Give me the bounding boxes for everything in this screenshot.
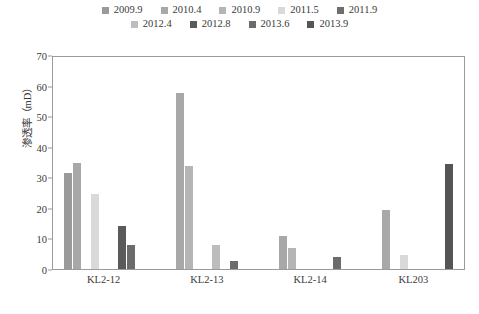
- bar-group-KL2-13: [155, 56, 258, 269]
- legend-label: 2013.6: [261, 18, 290, 30]
- bar-slot: [184, 56, 193, 269]
- bar-slot: [297, 56, 306, 269]
- legend-swatch-icon: [307, 21, 314, 28]
- bar-slot: [324, 56, 333, 269]
- bar-slot: [90, 56, 99, 269]
- legend-swatch-icon: [161, 7, 168, 14]
- bar-2012.8-KL2-12[interactable]: [118, 226, 126, 269]
- bar-slot: [342, 56, 351, 269]
- y-tick-label: 60: [37, 81, 48, 92]
- legend-label: 2013.9: [319, 18, 348, 30]
- bar-slot: [108, 56, 117, 269]
- legend-row-1: 2009.92010.42010.92011.52011.9: [93, 4, 387, 16]
- bar-slot: [175, 56, 184, 269]
- bar-slot: [445, 56, 454, 269]
- legend-swatch-icon: [102, 7, 109, 14]
- bar-2013.9-KL203[interactable]: [445, 164, 453, 269]
- y-tick-label: 40: [37, 142, 48, 153]
- bar-slot: [99, 56, 108, 269]
- legend-swatch-icon: [278, 7, 285, 14]
- bar-slot: [288, 56, 297, 269]
- bar-slot: [81, 56, 90, 269]
- legend-item-2012.4[interactable]: 2012.4: [131, 18, 172, 30]
- legend-item-2011.5[interactable]: 2011.5: [278, 4, 319, 16]
- bar-slot: [72, 56, 81, 269]
- bar-groups: [52, 56, 465, 269]
- legend-label: 2010.4: [173, 4, 202, 16]
- permeability-bar-chart: 2009.92010.42010.92011.52011.9 2012.4201…: [0, 0, 479, 314]
- bar-slot: [117, 56, 126, 269]
- bar-slot: [193, 56, 202, 269]
- bar-2012.4-KL2-13[interactable]: [212, 245, 220, 269]
- bar-slot: [409, 56, 418, 269]
- bar-slot: [427, 56, 436, 269]
- legend-swatch-icon: [190, 21, 197, 28]
- legend-item-2013.9[interactable]: 2013.9: [307, 18, 348, 30]
- bar-2011.5-KL2-12[interactable]: [91, 194, 99, 269]
- bar-slot: [382, 56, 391, 269]
- y-axis-title: 渗透率（mD）: [19, 56, 34, 176]
- y-tick-label: 70: [37, 51, 48, 62]
- legend-label: 2009.9: [114, 4, 143, 16]
- bar-group-KL2-14: [259, 56, 362, 269]
- bar-slot: [333, 56, 342, 269]
- bar-slot: [220, 56, 229, 269]
- legend-item-2010.9[interactable]: 2010.9: [219, 4, 260, 16]
- legend-swatch-icon: [337, 7, 344, 14]
- bar-slot: [315, 56, 324, 269]
- bar-slot: [135, 56, 144, 269]
- x-tick-label-KL2-12: KL2-12: [52, 274, 155, 285]
- bar-slot: [63, 56, 72, 269]
- legend-label: 2011.5: [290, 4, 319, 16]
- bar-slot: [400, 56, 409, 269]
- legend-swatch-icon: [219, 7, 226, 14]
- bar-slot: [373, 56, 382, 269]
- bar-slot: [238, 56, 247, 269]
- y-tick-label: 0: [42, 265, 47, 276]
- bar-2010.4-KL2-12[interactable]: [73, 163, 81, 270]
- y-tick-label: 50: [37, 112, 48, 123]
- bar-2010.9-KL2-13[interactable]: [185, 166, 193, 269]
- bar-2010.4-KL2-14[interactable]: [279, 236, 287, 269]
- x-tick-label-KL2-13: KL2-13: [155, 274, 258, 285]
- x-tick-label-KL2-14: KL2-14: [259, 274, 362, 285]
- bar-slot: [229, 56, 238, 269]
- bar-2009.9-KL2-12[interactable]: [64, 173, 72, 269]
- legend-label: 2011.9: [349, 4, 378, 16]
- bar-slot: [391, 56, 400, 269]
- bar-2010.4-KL203[interactable]: [382, 210, 390, 269]
- bar-slot: [306, 56, 315, 269]
- bar-2010.4-KL2-13[interactable]: [176, 93, 184, 269]
- x-axis-labels: KL2-12KL2-13KL2-14KL203: [52, 274, 465, 285]
- bar-2011.5-KL203[interactable]: [400, 255, 408, 269]
- bar-slot: [279, 56, 288, 269]
- legend-item-2011.9[interactable]: 2011.9: [337, 4, 378, 16]
- legend-item-2010.4[interactable]: 2010.4: [161, 4, 202, 16]
- bar-slot: [166, 56, 175, 269]
- bar-slot: [418, 56, 427, 269]
- y-tick-label: 10: [37, 234, 48, 245]
- bar-slot: [126, 56, 135, 269]
- legend-label: 2012.4: [143, 18, 172, 30]
- bar-group-KL2-12: [52, 56, 155, 269]
- legend-swatch-icon: [249, 21, 256, 28]
- bar-slot: [211, 56, 220, 269]
- bar-slot: [270, 56, 279, 269]
- y-tick-label: 20: [37, 203, 48, 214]
- bar-2013.6-KL2-14[interactable]: [333, 257, 341, 269]
- legend-label: 2012.8: [202, 18, 231, 30]
- bar-2010.9-KL2-14[interactable]: [288, 248, 296, 269]
- chart-legend: 2009.92010.42010.92011.52011.9 2012.4201…: [0, 4, 479, 30]
- bar-slot: [202, 56, 211, 269]
- bar-2013.6-KL2-12[interactable]: [127, 245, 135, 269]
- legend-item-2013.6[interactable]: 2013.6: [249, 18, 290, 30]
- legend-row-2: 2012.42012.82013.62013.9: [122, 18, 358, 30]
- legend-item-2012.8[interactable]: 2012.8: [190, 18, 231, 30]
- x-tick-label-KL203: KL203: [362, 274, 465, 285]
- legend-swatch-icon: [131, 21, 138, 28]
- legend-item-2009.9[interactable]: 2009.9: [102, 4, 143, 16]
- bar-2013.6-KL2-13[interactable]: [230, 261, 238, 269]
- bar-slot: [436, 56, 445, 269]
- y-tick-label: 30: [37, 173, 48, 184]
- legend-label: 2010.9: [231, 4, 260, 16]
